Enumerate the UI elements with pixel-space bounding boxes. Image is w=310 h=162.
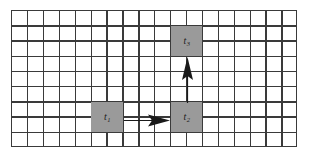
shaded-region-t3: t3	[171, 26, 203, 56]
shaded-region-t1: t1	[91, 102, 123, 132]
grid-diagram-figure: t3 t1 t2	[0, 0, 310, 162]
arrow-t1-to-t2-icon	[123, 110, 173, 130]
region-label-t3: t3	[184, 36, 190, 46]
region-label-t2: t2	[184, 112, 190, 122]
shaded-region-t2: t2	[171, 102, 203, 132]
arrow-t2-to-t3-icon	[177, 56, 197, 104]
region-label-t1: t1	[104, 112, 110, 122]
grid-area: t3 t1 t2	[11, 10, 297, 147]
